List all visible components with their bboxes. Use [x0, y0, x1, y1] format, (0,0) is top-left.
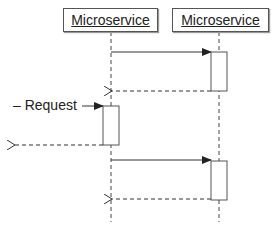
participant-name: Microservice: [71, 12, 150, 28]
activation-box-2b: [211, 161, 227, 200]
sequence-diagram-canvas: [0, 0, 274, 227]
request-label: – Request: [13, 97, 77, 113]
participant-name: Microservice: [181, 12, 260, 28]
participant-header-1: Microservice: [63, 8, 158, 32]
participant-header-2: Microservice: [172, 8, 269, 32]
activation-box-1: [103, 106, 119, 145]
activation-box-2a: [211, 52, 227, 91]
